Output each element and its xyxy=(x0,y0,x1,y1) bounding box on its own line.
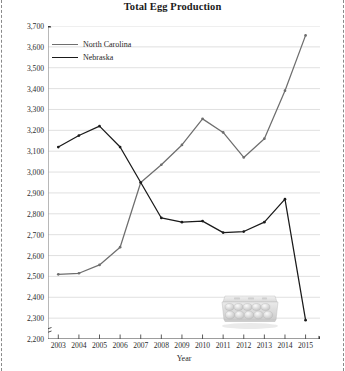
legend-item[interactable]: North Carolina xyxy=(52,38,172,51)
chart-legend: North CarolinaNebraska xyxy=(52,38,172,64)
y-tick-label: 2,800 xyxy=(0,209,44,218)
y-tick-label: 2,900 xyxy=(0,188,44,197)
legend-line-swatch xyxy=(52,44,78,45)
data-point xyxy=(263,137,266,140)
y-tick-label: 3,500 xyxy=(0,63,44,72)
data-point xyxy=(139,181,142,184)
data-point xyxy=(57,146,60,149)
x-axis-tick-labels: 2003200420052006200720082009201020112012… xyxy=(48,341,320,353)
data-point xyxy=(98,264,101,267)
data-point xyxy=(119,246,122,249)
data-point xyxy=(284,89,287,92)
legend-line-swatch xyxy=(52,57,78,58)
legend-label: North Carolina xyxy=(83,40,131,49)
x-axis-title: Year xyxy=(48,354,320,363)
data-point xyxy=(119,146,122,149)
data-point xyxy=(201,118,204,121)
data-point xyxy=(263,221,266,224)
chart-title: Total Egg Production xyxy=(0,1,345,12)
y-tick-label: 2,300 xyxy=(0,314,44,323)
egg-carton-image xyxy=(219,291,281,329)
data-point xyxy=(222,231,225,234)
data-point xyxy=(242,156,245,159)
y-tick-label: 3,700 xyxy=(0,22,44,31)
data-point xyxy=(98,125,101,128)
data-point xyxy=(181,144,184,147)
y-tick-label: 3,600 xyxy=(0,42,44,51)
data-point xyxy=(304,34,307,37)
data-point xyxy=(78,272,81,275)
y-tick-label: 3,300 xyxy=(0,105,44,114)
data-point xyxy=(242,230,245,233)
data-point xyxy=(304,319,307,322)
data-point xyxy=(160,217,163,220)
y-tick-label: 3,400 xyxy=(0,84,44,93)
data-point xyxy=(284,198,287,201)
series-layer xyxy=(57,34,307,322)
y-tick-label: 2,600 xyxy=(0,251,44,260)
legend-label: Nebraska xyxy=(83,53,113,62)
y-tick-label: 3,000 xyxy=(0,168,44,177)
data-point xyxy=(201,220,204,223)
y-axis-tick-labels: 2,2002,3002,4002,5002,6002,7002,8002,900… xyxy=(0,26,44,339)
y-tick-label: 2,400 xyxy=(0,293,44,302)
data-point xyxy=(57,273,60,276)
chart-container: Total Egg Production Million eggs 2,2002… xyxy=(0,0,345,371)
y-tick-label: 3,200 xyxy=(0,126,44,135)
x-axis-ticks xyxy=(58,335,305,340)
data-point xyxy=(222,131,225,134)
y-tick-label: 2,200 xyxy=(0,335,44,344)
y-tick-label: 2,500 xyxy=(0,272,44,281)
x-tick-label: 2015 xyxy=(289,341,323,350)
y-tick-label: 3,100 xyxy=(0,147,44,156)
data-point xyxy=(181,221,184,224)
y-tick-label: 2,700 xyxy=(0,230,44,239)
page-edge-right xyxy=(343,0,344,371)
data-point xyxy=(160,163,163,166)
data-point xyxy=(78,134,81,137)
series-line xyxy=(58,35,305,274)
legend-item[interactable]: Nebraska xyxy=(52,51,172,64)
